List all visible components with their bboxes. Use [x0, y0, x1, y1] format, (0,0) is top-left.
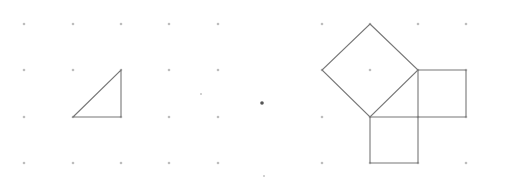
- stray-mark: [263, 175, 265, 177]
- left-grid-dot: [217, 69, 220, 72]
- stray-marks: [200, 93, 265, 177]
- left-grid-dot: [168, 116, 171, 119]
- left-grid-dot: [217, 162, 220, 165]
- figure-shapes: [73, 24, 466, 163]
- left-grid-dot: [168, 23, 171, 26]
- right-grid-dot: [321, 162, 324, 165]
- right-grid-dot: [417, 23, 420, 26]
- grid-dots: [23, 23, 468, 165]
- stray-mark: [200, 93, 202, 95]
- right-grid-dot: [369, 69, 372, 72]
- left-grid-dot: [120, 162, 123, 165]
- left-grid-dot: [72, 69, 75, 72]
- right-grid-dot: [321, 23, 324, 26]
- left-grid-dot: [72, 23, 75, 26]
- left-grid-dot: [120, 23, 123, 26]
- left-grid-dot: [23, 116, 26, 119]
- right-grid-dot: [465, 23, 468, 26]
- left-grid-dot: [23, 162, 26, 165]
- diagram-canvas: [0, 0, 508, 196]
- right-grid-dot: [321, 116, 324, 119]
- left-grid-dot: [23, 69, 26, 72]
- horizontal-leg-square: [370, 117, 418, 163]
- left-grid-dot: [168, 69, 171, 72]
- left-grid-dot: [23, 23, 26, 26]
- left-grid-dot: [217, 23, 220, 26]
- vertical-leg-square: [418, 70, 466, 117]
- left-grid-dot: [168, 162, 171, 165]
- right-triangle: [73, 70, 121, 117]
- right-grid-dot: [465, 162, 468, 165]
- stray-mark: [260, 101, 264, 105]
- left-grid-dot: [72, 162, 75, 165]
- left-grid-dot: [217, 116, 220, 119]
